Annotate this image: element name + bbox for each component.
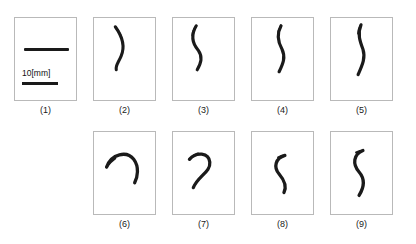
panel-caption-6: (6) <box>93 219 156 229</box>
specimen-curve-6 <box>94 132 155 214</box>
panel-caption-9: (9) <box>330 219 393 229</box>
scale-label: 10[mm] <box>22 68 50 78</box>
panel-box-3 <box>172 17 235 101</box>
panel-caption-7: (7) <box>172 219 235 229</box>
specimen-curve-9 <box>331 132 392 214</box>
panel-cell-4: (4) <box>251 17 314 101</box>
panel-caption-1: (1) <box>14 105 77 115</box>
panel-caption-4: (4) <box>251 105 314 115</box>
panel-cell-3: (3) <box>172 17 235 101</box>
panel-cell-7: (7) <box>172 131 235 215</box>
panel-caption-5: (5) <box>330 105 393 115</box>
panel-box-8 <box>251 131 314 215</box>
panel-caption-8: (8) <box>251 219 314 229</box>
panel-box-2 <box>93 17 156 101</box>
panel-cell-5: (5) <box>330 17 393 101</box>
panel-cell-1: 10[mm] (1) <box>14 17 77 101</box>
specimen-curve-7 <box>173 132 234 214</box>
panel-caption-3: (3) <box>172 105 235 115</box>
panel-cell-2: (2) <box>93 17 156 101</box>
specimen-curve-5 <box>331 18 392 100</box>
scale-bar <box>22 82 58 85</box>
panel-box-5 <box>330 17 393 101</box>
panel-cell-8: (8) <box>251 131 314 215</box>
specimen-curve-3 <box>173 18 234 100</box>
specimen-curve-2 <box>94 18 155 100</box>
panel-box-4 <box>251 17 314 101</box>
reference-specimen-line <box>24 48 69 51</box>
panel-box-1: 10[mm] <box>14 17 77 101</box>
panel-box-6 <box>93 131 156 215</box>
panel-cell-9: (9) <box>330 131 393 215</box>
panel-cell-6: (6) <box>93 131 156 215</box>
specimen-curve-8 <box>252 132 313 214</box>
panel-box-9 <box>330 131 393 215</box>
figure-root: 10[mm] (1) (2) (3) <box>0 0 416 244</box>
panel-box-7 <box>172 131 235 215</box>
specimen-curve-4 <box>252 18 313 100</box>
panel-caption-2: (2) <box>93 105 156 115</box>
